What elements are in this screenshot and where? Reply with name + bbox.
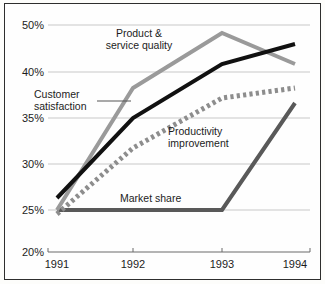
y-tick-label-35: 35% [14, 112, 44, 124]
y-tick-label-50: 50% [14, 19, 44, 31]
series-label-customer-satisfaction-line1: Customer [34, 89, 114, 101]
x-axis [48, 248, 310, 252]
y-tick-label-20: 20% [14, 246, 44, 258]
y-tick-label-30: 30% [14, 158, 44, 170]
series-label-product-service-quality: Product & service quality [96, 28, 182, 51]
series-label-customer-satisfaction: Customer satisfaction [34, 89, 114, 112]
series-line-customer-satisfaction [57, 44, 295, 198]
series-label-customer-satisfaction-line2: satisfaction [34, 101, 114, 113]
y-tick-label-40: 40% [14, 66, 44, 78]
series-label-market-share: Market share [120, 193, 200, 205]
x-tick-label-1993: 1993 [199, 258, 245, 270]
x-tick-label-1992: 1992 [110, 258, 156, 270]
series-label-product-service-quality-line1: Product & [96, 28, 182, 40]
chart-figure: 50% 40% 35% 30% 25% 20% 1991 1992 1993 1… [0, 0, 325, 284]
series-label-productivity-improvement: Productivity improvement [168, 126, 254, 149]
x-tick-label-1994: 1994 [272, 258, 318, 270]
x-tick-label-1991: 1991 [34, 258, 80, 270]
series-label-productivity-improvement-line1: Productivity [168, 126, 254, 138]
series-label-product-service-quality-line2: service quality [96, 40, 182, 52]
y-tick-label-25: 25% [14, 204, 44, 216]
series-label-productivity-improvement-line2: improvement [168, 138, 254, 150]
